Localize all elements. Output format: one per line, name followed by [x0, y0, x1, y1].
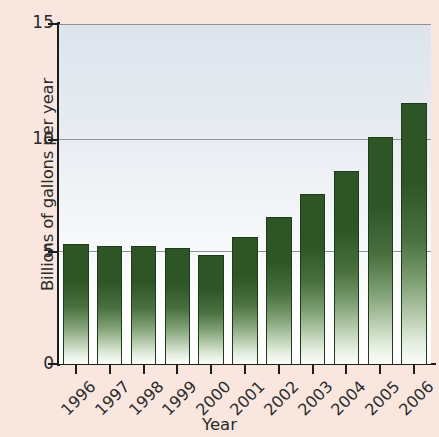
x-tick-mark-2000 [210, 365, 212, 374]
bar-2004 [334, 171, 360, 364]
x-tick-mark-1998 [143, 365, 145, 374]
x-tick-mark-1996 [75, 365, 77, 374]
bar-1997 [97, 246, 123, 364]
bar-1996 [63, 244, 89, 364]
x-tick-mark-1997 [109, 365, 111, 374]
x-tick-mark-2003 [312, 365, 314, 374]
x-tick-mark-1999 [176, 365, 178, 374]
bar-2006 [401, 103, 427, 364]
bar-2005 [368, 137, 394, 364]
bar-2003 [300, 194, 326, 364]
x-tick-mark-2006 [413, 365, 415, 374]
bar-2000 [198, 255, 224, 364]
x-axis-title: Year [0, 415, 439, 434]
plot-area [59, 24, 431, 364]
bar-1998 [131, 246, 157, 364]
y-tick-mark-10 [48, 139, 57, 141]
y-tick-mark-15 [48, 23, 57, 25]
x-tick-mark-2002 [278, 365, 280, 374]
bar-2002 [266, 217, 292, 364]
y-tick-mark-0 [48, 363, 57, 365]
y-tick-mark-5 [48, 251, 57, 253]
x-tick-mark-2004 [345, 365, 347, 374]
bar-series [59, 24, 431, 364]
x-tick-mark-2001 [244, 365, 246, 374]
bar-2001 [232, 237, 258, 364]
x-tick-mark-2005 [379, 365, 381, 374]
y-axis-ticks: 15 10 5 0 [0, 0, 54, 437]
bar-1999 [165, 248, 191, 364]
bar-chart-figure: Billions of gallons per year 15 10 5 0 1… [0, 0, 439, 437]
